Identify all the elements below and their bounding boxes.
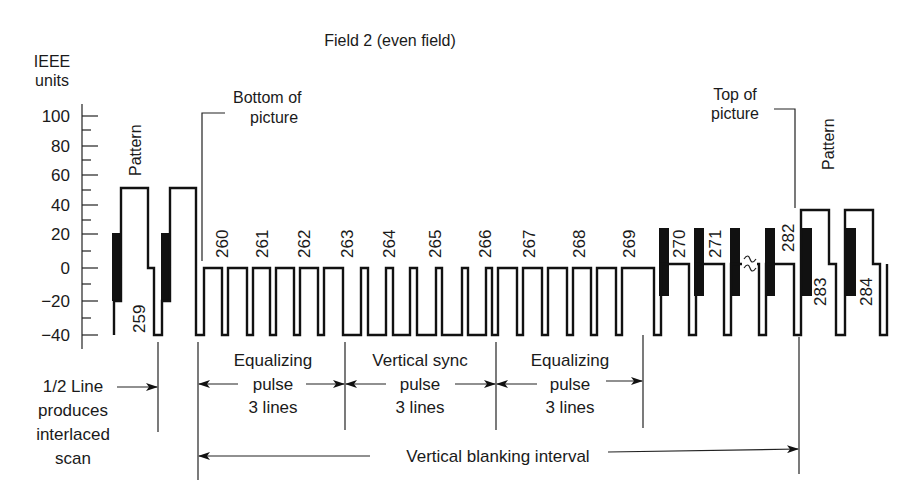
- diagram-title: Field 2 (even field): [324, 32, 456, 49]
- top-of-picture-leader: [774, 109, 795, 208]
- vs-text-3: 3 lines: [395, 398, 444, 417]
- eq2-text-3: 3 lines: [545, 398, 594, 417]
- y-tick-80: 80: [51, 137, 70, 156]
- y-tick-40: 40: [51, 196, 70, 215]
- vbi-arrow-right: [608, 449, 798, 452]
- pattern-label-right: Pattern: [820, 118, 837, 170]
- line-label-268: 268: [570, 230, 589, 258]
- bottom-of-picture-line1: Bottom of: [233, 89, 302, 106]
- top-of-picture-line1: Top of: [713, 86, 757, 103]
- line-label-265: 265: [426, 230, 445, 258]
- y-tick-20: 20: [51, 225, 70, 244]
- eq1-text-2: pulse: [253, 375, 294, 394]
- y-tick-minus20: −20: [41, 292, 70, 311]
- line-label-270: 270: [670, 230, 689, 258]
- line-label-284: 284: [857, 278, 876, 306]
- line-label-282: 282: [779, 224, 798, 252]
- eq1-text-3: 3 lines: [248, 398, 297, 417]
- vs-text-2: pulse: [400, 375, 441, 394]
- line-label-269: 269: [620, 230, 639, 258]
- half-line-text-3: interlaced: [36, 425, 110, 444]
- y-tick-0: 0: [61, 259, 70, 278]
- eq2-text-1: Equalizing: [531, 351, 609, 370]
- line-label-267: 267: [520, 230, 539, 258]
- y-axis: [82, 104, 98, 349]
- eq1-text-1: Equalizing: [234, 351, 312, 370]
- y-axis-label-line1: IEEE: [34, 53, 70, 70]
- half-line-text-4: scan: [55, 449, 91, 468]
- vs-text-1: Vertical sync: [372, 351, 468, 370]
- bottom-of-picture-line2: picture: [250, 109, 298, 126]
- y-axis-label-line2: units: [35, 72, 69, 89]
- line-label-263: 263: [338, 230, 357, 258]
- line-label-271: 271: [706, 230, 725, 258]
- top-of-picture-line2: picture: [711, 105, 759, 122]
- field2-vertical-blanking-diagram: Field 2 (even field) IEEE units 100 80 6…: [0, 0, 919, 503]
- y-tick-60: 60: [51, 166, 70, 185]
- line-label-260: 260: [213, 230, 232, 258]
- y-tick-minus40: −40: [41, 326, 70, 345]
- line-label-262: 262: [295, 230, 314, 258]
- half-line-text-2: produces: [38, 401, 108, 420]
- line-label-261: 261: [253, 230, 272, 258]
- line-label-266: 266: [476, 230, 495, 258]
- line-label-264: 264: [380, 230, 399, 258]
- half-line-text-1: 1/2 Line: [43, 377, 104, 396]
- line-label-259: 259: [130, 305, 149, 333]
- line-label-283: 283: [811, 278, 830, 306]
- break-symbol-icon: [744, 256, 756, 271]
- eq2-text-2: pulse: [550, 375, 591, 394]
- y-tick-100: 100: [42, 107, 70, 126]
- vbi-text: Vertical blanking interval: [406, 447, 589, 466]
- pattern-label-left: Pattern: [127, 124, 144, 176]
